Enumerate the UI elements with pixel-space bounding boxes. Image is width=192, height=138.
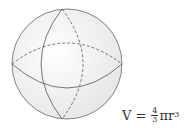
volume-formula: V = 4 3 πr3 xyxy=(122,107,179,124)
formula-fraction: 4 3 xyxy=(151,107,158,124)
formula-lhs: V xyxy=(122,108,131,123)
formula-equals: = xyxy=(135,108,146,123)
formula-pi-r: πr xyxy=(159,108,174,123)
formula-exponent: 3 xyxy=(174,110,179,119)
fraction-denominator: 3 xyxy=(152,116,157,124)
sphere-outline xyxy=(12,9,122,119)
